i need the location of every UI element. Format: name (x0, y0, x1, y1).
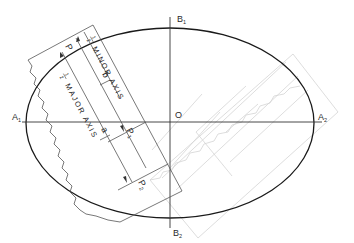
trammel-strip (28, 25, 182, 222)
torn-edge (28, 60, 120, 222)
half-major-axis-label: 1 2 MAJOR AXIS (58, 71, 102, 140)
trammel-ellipse-diagram: A1 A2 B1 B2 O P P1 P2 1 2 MINOR AXIS b (0, 0, 354, 243)
axis-labels: A1 A2 B1 B2 O (12, 14, 327, 239)
label-p1: P1 (123, 126, 137, 139)
dimension-arrows (60, 36, 127, 183)
svg-text:2: 2 (59, 75, 66, 80)
label-p: P (63, 42, 75, 52)
trammel-labels: P P1 P2 1 2 MINOR AXIS b 1 2 MAJOR AXIS … (58, 34, 149, 192)
label-a-dimension: a (99, 125, 110, 134)
label-a1: A1 (12, 112, 21, 123)
label-a2: A2 (318, 112, 327, 123)
label-b2: B2 (173, 228, 182, 239)
arrow-p2 (123, 176, 127, 183)
svg-text:MAJOR AXIS: MAJOR AXIS (63, 82, 100, 140)
label-center-o: O (175, 110, 182, 120)
svg-text:2: 2 (86, 38, 93, 43)
label-b1: B1 (177, 14, 186, 25)
